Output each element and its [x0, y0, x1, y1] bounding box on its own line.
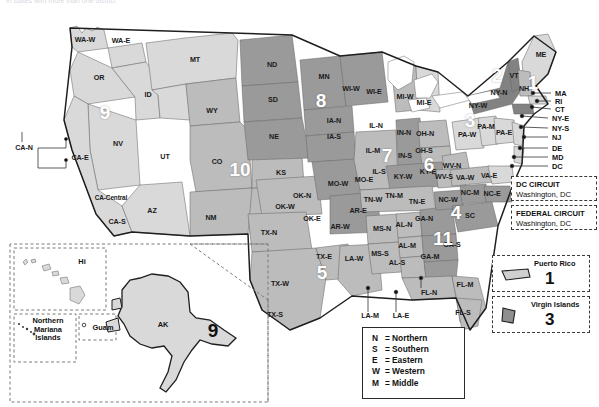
district-label-la-m: LA-M: [361, 312, 379, 320]
district-label-al-s: AL-S: [389, 259, 405, 267]
district-label-mn: MN: [319, 73, 330, 81]
callout-label-md: MD: [552, 153, 564, 162]
district-label-tn-w: TN-W: [364, 196, 382, 204]
key-row-m: M=Middle: [372, 377, 429, 388]
key-word: Middle: [392, 377, 429, 388]
virgin-islands-shape: [499, 305, 533, 329]
district-label-nd: ND: [267, 61, 277, 69]
district-label-tx-e: TX-E: [316, 253, 332, 261]
key-abbr: N: [372, 333, 383, 344]
key-abbr: E: [372, 355, 383, 366]
virgin-islands-box[interactable]: Virgin Islands 3: [492, 296, 590, 333]
callout-label-ny-e: NY-E: [552, 114, 569, 123]
district-label-oh-n: OH-N: [416, 130, 434, 138]
federal-circuit-city: Washington, DC: [516, 219, 596, 228]
district-label-ca-central: CA-Central: [95, 195, 127, 202]
district-label-mt: MT: [190, 56, 200, 64]
district-label-nm: NM: [206, 214, 217, 222]
puerto-rico-shape: [498, 265, 538, 285]
district-label-al-n: AL-N: [396, 221, 413, 229]
callout-label-ct: CT: [555, 105, 565, 114]
district-label-fl-s: FL-S: [455, 309, 471, 317]
district-label-ca-n: CA-N: [15, 144, 33, 152]
dc-circuit-title: DC CIRCUIT: [516, 180, 596, 189]
district-label-ne: NE: [269, 133, 279, 141]
district-label-tn-e: TN-E: [409, 198, 425, 206]
key-word: Eastern: [392, 355, 429, 366]
district-label-wy: WY: [206, 107, 217, 115]
district-label-ia-n: IA-N: [327, 117, 341, 125]
district-label-al-m: AL-M: [398, 242, 416, 250]
district-label-ga-n: GA-N: [415, 215, 433, 223]
us-circuits-map-svg: .st{stroke:#6a6a6a;stroke-width:.55;} .c…: [0, 0, 599, 407]
district-label-ok-e: OK-E: [303, 215, 321, 223]
abbreviation-key-box: N=NorthernS=SouthernE=EasternW=WesternM=…: [362, 327, 465, 399]
district-label-tx-w: TX-W: [271, 280, 289, 288]
dc-circuit-box[interactable]: DC CIRCUIT Washington, DC: [511, 176, 597, 201]
inset-label-hi: Hi: [78, 258, 85, 267]
district-label-va-e: VA-E: [481, 172, 497, 180]
ca-e-dot: [64, 158, 68, 162]
circuit-number-7[interactable]: 7: [382, 146, 393, 165]
district-label-mo-w: MO-W: [328, 180, 348, 188]
district-label-nv: NV: [113, 140, 123, 148]
callout-label-dc: DC: [552, 162, 563, 171]
key-word: Southern: [392, 344, 429, 355]
district-label-va-w: VA-W: [456, 174, 474, 182]
district-label-la-e: LA-E: [393, 312, 409, 320]
circuit-number-9-alaska[interactable]: 9: [208, 321, 219, 340]
circuit-number-4[interactable]: 4: [451, 203, 462, 222]
key-abbr: S: [372, 344, 383, 355]
key-equals: =: [383, 333, 392, 344]
district-label-co: CO: [212, 158, 223, 166]
district-label-ga-m: GA-M: [421, 253, 440, 261]
callout-label-de: DE: [552, 144, 562, 153]
inset-label-guam: Guam: [93, 324, 114, 333]
district-label-la-w: LA-W: [345, 255, 363, 263]
key-equals: =: [383, 366, 392, 377]
circuit-number-2[interactable]: 2: [492, 66, 503, 85]
key-equals: =: [383, 344, 392, 355]
district-label-tx-n: TX-N: [261, 229, 277, 237]
district-label-mi-w: MI-W: [397, 93, 414, 101]
district-label-fl-n: FL-N: [421, 289, 437, 297]
key-row-e: E=Eastern: [372, 355, 429, 366]
circuit-number-1[interactable]: 1: [528, 73, 539, 92]
district-label-wv-n: WV-N: [443, 162, 461, 170]
district-label-nc-e: NC-E: [483, 190, 500, 198]
key-equals: =: [383, 355, 392, 366]
district-label-mi-e: MI-E: [417, 99, 432, 107]
circuit-number-9[interactable]: 9: [100, 103, 111, 122]
district-label-ms-n: MS-N: [373, 225, 391, 233]
callout-label-ny-s: NY-S: [552, 124, 569, 133]
federal-circuit-title: FEDERAL CIRCUIT: [516, 209, 596, 218]
inset-label-ak: AK: [158, 321, 169, 330]
district-label-tn-m: TN-M: [385, 192, 403, 200]
circuit-number-11[interactable]: 11: [433, 229, 453, 248]
key-word: Western: [392, 366, 429, 377]
circuit-number-6[interactable]: 6: [424, 155, 435, 174]
district-label-il-m: IL-M: [366, 147, 380, 155]
district-label-in-s: IN-S: [398, 152, 412, 160]
key-word: Northern: [392, 333, 429, 344]
district-label-ia-s: IA-S: [327, 133, 341, 141]
virgin-islands-name: Virgin Islands: [531, 300, 579, 309]
district-label-ar-w: AR-W: [330, 223, 349, 231]
circuit-number-3[interactable]: 3: [465, 111, 476, 130]
map-canvas: in states with more than one district .s…: [0, 0, 599, 407]
federal-circuit-box[interactable]: FEDERAL CIRCUIT Washington, DC: [511, 205, 597, 230]
hawaii-islands: [23, 259, 85, 304]
district-label-wi-e: WI-E: [366, 88, 382, 96]
key-row-s: S=Southern: [372, 344, 429, 355]
circuit-number-5[interactable]: 5: [317, 263, 328, 282]
key-abbr: M: [372, 377, 383, 388]
puerto-rico-box[interactable]: Puerto Rico 1: [492, 255, 590, 292]
district-label-ms-s: MS-S: [371, 250, 389, 258]
circuit-number-10[interactable]: 10: [229, 160, 250, 179]
district-label-sd: SD: [268, 96, 278, 104]
circuit-number-8[interactable]: 8: [316, 91, 327, 110]
key-row-n: N=Northern: [372, 333, 429, 344]
abbreviation-key-table: N=NorthernS=SouthernE=EasternW=WesternM=…: [372, 333, 429, 388]
district-label-az: AZ: [147, 207, 156, 215]
puerto-rico-circuit-number: 1: [545, 270, 554, 287]
